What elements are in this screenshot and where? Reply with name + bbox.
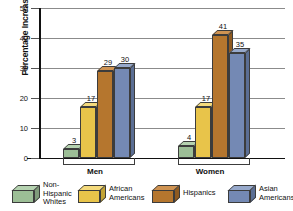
group-label-women: Women [180, 167, 240, 176]
legend-label-asian-americans: Asian Americans [259, 185, 293, 202]
y-axis-title: Percentage Increase [20, 0, 30, 98]
gridline-50 [40, 8, 285, 9]
bar-women-african-americans [195, 107, 211, 158]
bar-women-non-hispanic-whites [178, 146, 194, 158]
y-tick-20 [31, 98, 39, 99]
gridline-40 [40, 38, 285, 39]
bar-value-women-3: 41 [211, 23, 235, 31]
bar-men-african-americans [80, 107, 96, 158]
y-tick-label-10: 10 [6, 125, 28, 133]
bar-chart: Percentage Increase 50 40 30 20 10 0 3 [0, 0, 293, 211]
y-tick-30 [31, 68, 39, 69]
y-axis-line [39, 8, 41, 159]
group-base-women [178, 158, 250, 165]
y-tick-40 [31, 38, 39, 39]
y-tick-10 [31, 128, 39, 129]
bar-men-asian-americans [114, 68, 130, 158]
y-tick-50 [31, 8, 39, 9]
legend-swatch-blue-icon [228, 185, 250, 199]
legend-label-non-hispanic-whites: Non- Hispanic Whites [43, 181, 72, 207]
legend-label-hispanics: Hispanics [183, 189, 216, 198]
bar-men-non-hispanic-whites [63, 149, 79, 158]
legend: Non- Hispanic Whites African Americans H… [0, 179, 293, 211]
group-label-men: Men [65, 167, 125, 176]
bar-men-hispanics [97, 71, 113, 158]
bar-women-hispanics [212, 35, 228, 158]
bar-value-men-4: 30 [113, 56, 137, 64]
legend-swatch-yellow-icon [78, 185, 100, 199]
group-base-men [63, 158, 135, 165]
bar-value-women-4: 35 [228, 41, 252, 49]
y-tick-label-0: 0 [6, 155, 28, 163]
y-tick-0 [31, 158, 39, 159]
bar-women-asian-americans [229, 53, 245, 158]
legend-swatch-green-icon [12, 185, 34, 199]
legend-swatch-brown-icon [152, 185, 174, 199]
legend-label-african-americans: African Americans [109, 185, 144, 202]
